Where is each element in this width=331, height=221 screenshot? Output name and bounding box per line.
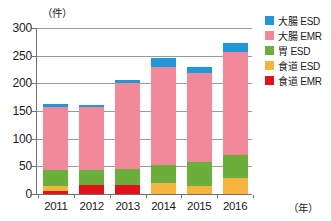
x-axis-tick — [146, 195, 147, 198]
legend-label: 胃 ESD — [278, 43, 310, 58]
bar-2015[interactable] — [187, 67, 212, 194]
y-axis-tick-label: 200 — [13, 76, 32, 90]
bar-segment — [43, 107, 68, 170]
gridline — [37, 166, 252, 167]
bar-segment — [79, 107, 104, 170]
x-axis-tick — [38, 195, 39, 198]
legend-item[interactable]: 食道 ESD — [265, 58, 331, 72]
bar-segment — [223, 155, 248, 178]
bar-segment — [187, 186, 212, 194]
gridline — [37, 111, 252, 112]
legend-label: 食道 EMR — [278, 73, 322, 88]
y-axis-tick — [32, 56, 36, 57]
x-axis-tick — [253, 195, 254, 198]
x-axis-tick — [217, 195, 218, 198]
legend-item[interactable]: 胃 ESD — [265, 43, 331, 57]
y-axis-tick-label: 100 — [13, 132, 32, 146]
bar-segment — [115, 83, 140, 168]
bar-segment — [43, 170, 68, 186]
y-axis-tick-label: 250 — [13, 49, 32, 63]
legend-item[interactable]: 大腸 EMR — [265, 28, 331, 42]
y-axis-tick — [32, 28, 36, 29]
bar-segment — [151, 165, 176, 183]
legend-swatch-icon — [265, 16, 274, 25]
bar-2013[interactable] — [115, 80, 140, 195]
legend-swatch-icon — [265, 76, 274, 85]
bar-2016[interactable] — [223, 43, 248, 194]
gridline — [37, 83, 252, 84]
y-axis-tick-label: 150 — [13, 104, 32, 118]
legend-label: 大腸 EMR — [278, 28, 322, 43]
legend-swatch-icon — [265, 46, 274, 55]
chart-container: （件） 050100150200250300 20112012201320142… — [0, 0, 331, 221]
bar-segment — [79, 170, 104, 185]
bar-segment — [151, 58, 176, 66]
y-axis-tick — [32, 83, 36, 84]
bar-segment — [187, 67, 212, 74]
legend-label: 大腸 ESD — [278, 13, 320, 28]
bar-segment — [115, 169, 140, 186]
y-axis-tick — [32, 166, 36, 167]
bar-2014[interactable] — [151, 58, 176, 194]
y-axis-tick — [32, 194, 36, 195]
x-axis-label-2012: 2012 — [72, 200, 112, 212]
x-axis-label-2015: 2015 — [179, 200, 219, 212]
bar-segment — [79, 185, 104, 194]
gridline — [37, 28, 252, 29]
bar-segment — [43, 191, 68, 194]
legend-item[interactable]: 食道 EMR — [265, 73, 331, 87]
x-axis-label-2016: 2016 — [215, 200, 255, 212]
x-axis-line — [36, 194, 252, 195]
x-axis-unit-label: （年） — [288, 200, 318, 215]
legend-swatch-icon — [265, 61, 274, 70]
bar-segment — [187, 162, 212, 185]
bar-segment — [223, 178, 248, 194]
y-axis-tick — [32, 139, 36, 140]
bar-segment — [115, 185, 140, 194]
y-axis-tick-label: 300 — [13, 21, 32, 35]
bar-segment — [187, 73, 212, 162]
plot-area: 050100150200250300 201120122013201420152… — [36, 28, 251, 194]
y-axis-tick-label: 0 — [26, 187, 32, 201]
legend-item[interactable]: 大腸 ESD — [265, 13, 331, 27]
chart-legend: 大腸 ESD大腸 EMR胃 ESD食道 ESD食道 EMR — [265, 13, 331, 88]
bar-2011[interactable] — [43, 104, 68, 194]
bar-segment — [151, 67, 176, 165]
y-axis-unit-label: （件） — [42, 5, 72, 20]
x-axis-tick — [110, 195, 111, 198]
legend-swatch-icon — [265, 31, 274, 40]
gridline — [37, 139, 252, 140]
x-axis-label-2013: 2013 — [108, 200, 148, 212]
gridline — [37, 56, 252, 57]
x-axis-label-2014: 2014 — [143, 200, 183, 212]
y-axis-tick-label: 50 — [19, 159, 32, 173]
bar-2012[interactable] — [79, 105, 104, 194]
bar-segment — [223, 43, 248, 52]
x-axis-tick — [74, 195, 75, 198]
x-axis-label-2011: 2011 — [36, 200, 76, 212]
bar-segment — [151, 183, 176, 194]
legend-label: 食道 ESD — [278, 58, 320, 73]
x-axis-tick — [181, 195, 182, 198]
bar-segment — [223, 52, 248, 154]
y-axis-tick — [32, 111, 36, 112]
